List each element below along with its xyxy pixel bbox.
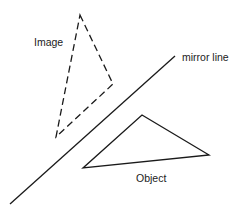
reflection-diagram: Image mirror line Object — [0, 0, 237, 216]
diagram-svg — [0, 0, 237, 216]
mirror-line-label: mirror line — [182, 51, 229, 63]
object-triangle — [83, 115, 209, 168]
object-label: Object — [136, 172, 166, 184]
image-label: Image — [34, 36, 63, 48]
